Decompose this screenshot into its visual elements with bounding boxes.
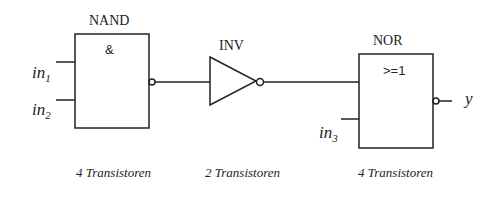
nand-label: NAND — [89, 13, 129, 29]
logic-circuit-diagram: NAND INV NOR & >=1 in1 in2 in3 y 4 Trans… — [0, 0, 497, 200]
nor-label: NOR — [373, 33, 403, 49]
in2-label: in2 — [32, 100, 51, 121]
nor-symbol: >=1 — [383, 63, 405, 78]
inverter-triangle — [210, 57, 256, 105]
in3-label: in3 — [319, 123, 338, 144]
output-y-label: y — [465, 89, 473, 109]
inv-negation-bubble — [257, 79, 264, 86]
nand-transistor-caption: 4 Transistoren — [76, 165, 151, 181]
nor-negation-bubble — [433, 98, 439, 104]
nand-symbol: & — [105, 42, 114, 57]
nor-transistor-caption: 4 Transistoren — [358, 165, 433, 181]
in1-label: in1 — [32, 63, 51, 84]
nand-negation-bubble — [149, 79, 155, 85]
inv-label: INV — [219, 38, 244, 54]
inv-transistor-caption: 2 Transistoren — [205, 165, 280, 181]
